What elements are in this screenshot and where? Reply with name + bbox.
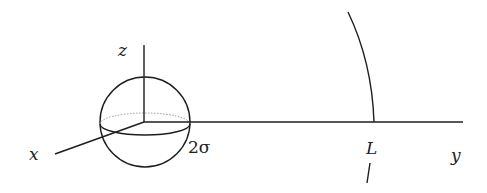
distance-label: L: [366, 140, 377, 157]
distance-arc: [348, 12, 374, 122]
sphere-radius-label: 2σ: [188, 139, 210, 156]
distance-tick: [367, 163, 370, 183]
coordinate-diagram: [0, 0, 487, 193]
y-axis-label: y: [451, 147, 461, 164]
z-axis-label: z: [118, 42, 127, 59]
x-axis: [55, 122, 144, 154]
x-axis-label: x: [29, 146, 39, 163]
